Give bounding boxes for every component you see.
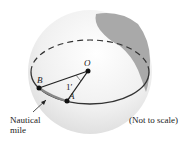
label-B: B <box>37 76 43 85</box>
angle-label: 1′ <box>66 83 72 92</box>
point-B <box>37 86 42 91</box>
label-O: O <box>84 59 91 68</box>
not-to-scale-note: (Not to scale) <box>129 116 178 125</box>
point-O <box>86 69 91 74</box>
mile-label: mile <box>10 126 26 135</box>
nautical-label: Nautical <box>10 116 41 125</box>
label-A: A <box>69 92 75 101</box>
